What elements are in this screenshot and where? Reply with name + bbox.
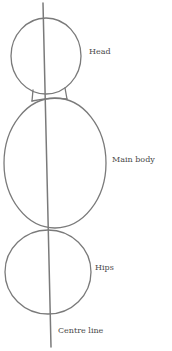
hips-label: Hips: [95, 263, 114, 272]
centre-line-label: Centre line: [58, 326, 103, 335]
centre-line: [43, 3, 51, 347]
main-body-shape: [4, 98, 106, 228]
neck-line-right: [65, 88, 67, 99]
main-body-label: Main body: [112, 155, 155, 164]
head-shape: [11, 18, 81, 94]
head-label: Head: [89, 47, 111, 56]
figure-construction-drawing: [0, 0, 172, 351]
